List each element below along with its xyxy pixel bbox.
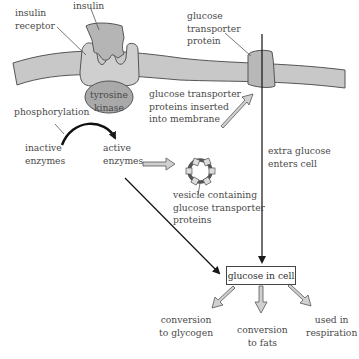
pointer-receptor <box>57 27 86 55</box>
label-extra-glucose: extra glucose enters cell <box>268 145 331 170</box>
cell-membrane <box>13 51 345 88</box>
label-used-respiration: used in respiration <box>306 314 357 339</box>
label-glucose-in-cell: glucose in cell <box>227 267 295 284</box>
label-conversion-fats: conversion to fats <box>237 324 288 349</box>
arrow-to-fats <box>255 286 267 313</box>
label-vesicle: vesicle containing glucose transporter p… <box>173 189 265 227</box>
label-insulin: insulin <box>73 0 104 13</box>
vesicle <box>186 158 215 185</box>
label-active-enzymes: active enzymes <box>103 142 143 167</box>
insulin-glucose-diagram: insulin insulin receptor tyrosine kinase… <box>0 0 359 359</box>
label-glucose-transporter-protein: glucose transporter protein <box>187 10 241 48</box>
arrow-to-glycogen <box>212 286 235 308</box>
glucose-in-cell-box: glucose in cell <box>226 266 296 285</box>
label-insulin-receptor: insulin receptor <box>15 7 55 32</box>
arrow-to-respiration <box>288 284 311 306</box>
diagram-graphics <box>0 0 359 359</box>
label-transporters-inserted: glucose transporter proteins inserted in… <box>149 88 241 126</box>
hollow-arrow-to-vesicle <box>143 158 175 170</box>
pointer-phosphorylation <box>55 124 64 134</box>
label-tyrosine-kinase: tyrosine kinase <box>90 89 128 114</box>
label-phosphorylation: phosphorylation <box>14 106 89 119</box>
label-inactive-enzymes: inactive enzymes <box>25 142 65 167</box>
label-conversion-glycogen: conversion to glycogen <box>159 314 213 339</box>
